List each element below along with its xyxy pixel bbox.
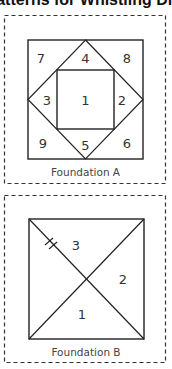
piece-4: 4 — [81, 51, 89, 66]
piece-9: 9 — [39, 136, 47, 151]
grain-hash-icon — [45, 238, 57, 249]
piece-2: 2 — [119, 272, 127, 287]
foundation-b: 3 2 1 Foundation B — [5, 196, 166, 363]
piece-2: 2 — [118, 93, 126, 108]
piece-1: 1 — [78, 307, 86, 322]
foundation-b-label: Foundation B — [51, 346, 120, 358]
foundation-a: 1 2 3 4 5 6 7 8 9 Foundation A — [5, 16, 166, 184]
piece-5: 5 — [81, 138, 89, 153]
piece-3: 3 — [43, 93, 51, 108]
foundation-a-label: Foundation A — [51, 166, 121, 178]
piece-1: 1 — [81, 93, 89, 108]
piece-6: 6 — [123, 136, 131, 151]
piece-7: 7 — [37, 51, 45, 66]
piece-3: 3 — [72, 238, 80, 253]
foundation-diagrams: 1 2 3 4 5 6 7 8 9 Foundation A 3 2 1 Fou… — [0, 0, 172, 369]
piece-8: 8 — [123, 51, 131, 66]
